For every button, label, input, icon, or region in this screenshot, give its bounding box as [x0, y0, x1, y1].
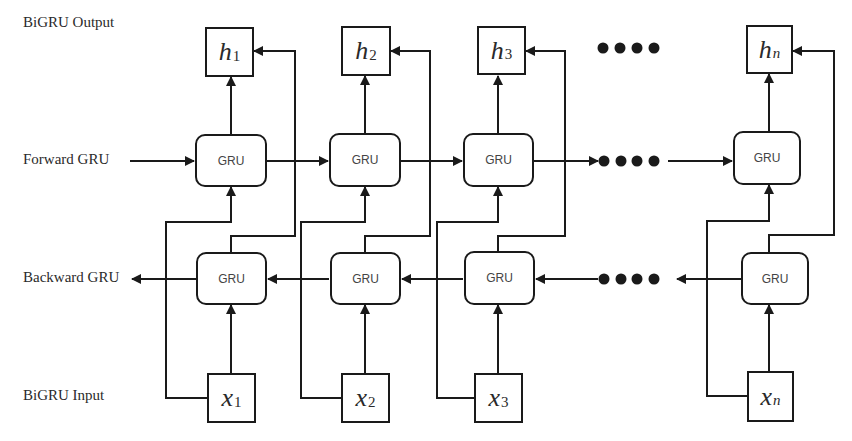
forward-gru-cell-3: GRU [463, 133, 534, 187]
output-sub: 3 [505, 46, 513, 63]
output-var: h [491, 36, 504, 66]
input-sub: 1 [234, 394, 242, 411]
input-var: x [488, 383, 500, 413]
input-sub: n [773, 392, 781, 409]
output-sub: n [773, 45, 781, 62]
input-var: x [355, 383, 367, 413]
output-h1: h1 [205, 27, 254, 77]
backward-gru-cell-1: GRU [196, 252, 267, 305]
backward-gru-cell-n: GRU [741, 252, 809, 305]
backward-gru-cell-2: GRU [330, 252, 401, 305]
input-x2: x2 [341, 373, 390, 423]
ellipsis-dots [598, 43, 660, 285]
input-xn: xn [747, 371, 794, 422]
output-var: h [355, 36, 368, 66]
output-hn: hn [746, 25, 793, 74]
input-x3: x3 [474, 373, 523, 423]
label-forward-gru: Forward GRU [23, 151, 109, 168]
input-sub: 3 [501, 394, 509, 411]
output-var: h [759, 35, 772, 65]
output-sub: 2 [369, 47, 377, 64]
label-bigru-output: BiGRU Output [23, 14, 114, 31]
connection-lines [0, 0, 852, 441]
output-var: h [219, 37, 232, 67]
forward-gru-cell-2: GRU [329, 133, 401, 187]
label-bigru-input: BiGRU Input [23, 387, 104, 404]
input-var: x [221, 383, 233, 413]
input-var: x [760, 382, 772, 412]
input-sub: 2 [368, 394, 376, 411]
forward-gru-cell-n: GRU [733, 131, 801, 185]
output-h2: h2 [341, 26, 391, 76]
backward-gru-cell-3: GRU [464, 251, 535, 305]
output-sub: 1 [233, 48, 241, 65]
output-h3: h3 [477, 26, 526, 75]
label-backward-gru: Backward GRU [23, 269, 119, 286]
forward-gru-cell-1: GRU [195, 134, 267, 187]
input-x1: x1 [207, 373, 256, 423]
